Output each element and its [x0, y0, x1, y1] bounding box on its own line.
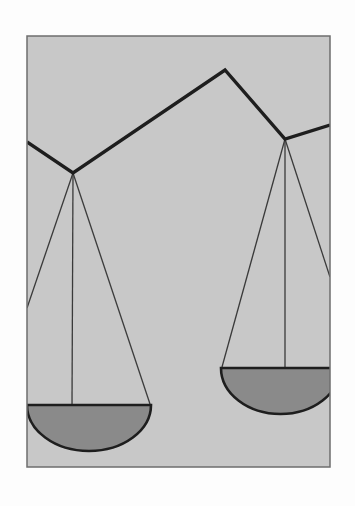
balance-scale-illustration — [0, 0, 355, 506]
illustration-root: Unbalanced balance scale A two-pan balan… — [0, 0, 355, 506]
